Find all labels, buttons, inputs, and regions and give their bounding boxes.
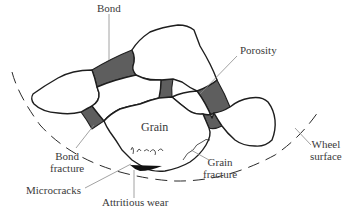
label-porosity: Porosity xyxy=(240,44,277,56)
grinding-wheel-diagram xyxy=(0,0,352,215)
label-wheel-surface-line2: surface xyxy=(310,150,342,162)
label-wheel-surface-line1: Wheel xyxy=(310,138,342,150)
label-bond-fracture-line1: Bond xyxy=(50,150,84,162)
label-bond: Bond xyxy=(97,2,121,14)
label-attritious-wear: Attritious wear xyxy=(102,196,168,208)
label-microcracks: Microcracks xyxy=(26,184,81,196)
microcracks-leader xyxy=(85,164,131,188)
label-grain-fracture-line2: fracture xyxy=(203,168,237,180)
label-bond-fracture-line2: fracture xyxy=(50,162,84,174)
label-grain-fracture: Grain fracture xyxy=(203,156,237,180)
label-wheel-surface: Wheel surface xyxy=(310,138,342,162)
grain-left xyxy=(32,70,99,114)
label-grain: Grain xyxy=(141,121,168,133)
label-bond-fracture: Bond fracture xyxy=(50,150,84,174)
label-grain-fracture-line1: Grain xyxy=(203,156,237,168)
bond-fracture-leader xyxy=(76,125,94,148)
